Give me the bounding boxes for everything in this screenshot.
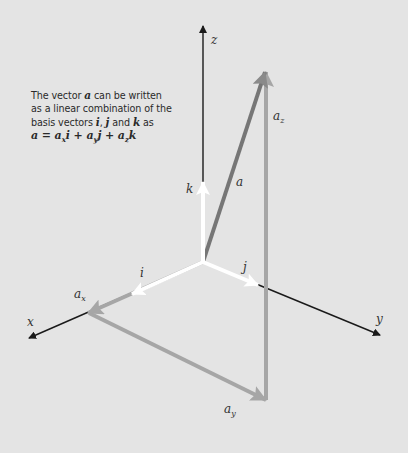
component-ay-arrow <box>89 313 266 400</box>
label-axis-z: z <box>211 34 217 46</box>
label-basis-j: j <box>243 261 247 273</box>
vector-a-arrow <box>203 72 265 262</box>
label-component-az: az <box>273 110 284 125</box>
label-axis-y: y <box>376 313 383 325</box>
label-basis-i: i <box>140 267 144 279</box>
caption-line-3: basis vectors i, j and k as <box>31 116 181 129</box>
label-component-ay: ay <box>224 403 236 418</box>
label-vector-a: a <box>236 176 243 188</box>
label-component-ax: ax <box>74 288 86 303</box>
caption-line-2: as a linear combination of the <box>31 102 181 115</box>
caption-line-1: The vector a can be written <box>31 89 181 102</box>
caption-equation: a = axi + ayj + azk <box>31 129 181 146</box>
basis-j-arrow <box>203 262 258 285</box>
label-basis-k: k <box>186 183 193 195</box>
label-axis-x: x <box>27 316 34 328</box>
caption-text: The vector a can be written as a linear … <box>31 89 181 146</box>
vector-diagram <box>0 0 408 453</box>
